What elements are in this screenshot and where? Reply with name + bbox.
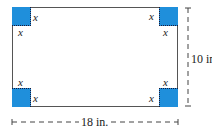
label-x-br-top: x	[163, 77, 168, 88]
corner-square-top-right	[159, 7, 178, 26]
label-x-bl-side: x	[33, 93, 38, 104]
height-dimension-label: 10 in.	[190, 53, 212, 65]
label-x-tl-bottom: x	[18, 27, 23, 38]
label-x-bl-top: x	[18, 77, 23, 88]
label-x-tr-side: x	[149, 11, 154, 22]
corner-square-top-left	[12, 7, 31, 26]
width-dimension-label: 18 in.	[79, 116, 110, 128]
label-x-tr-bottom: x	[163, 27, 168, 38]
corner-square-bottom-right	[159, 88, 178, 107]
label-x-br-side: x	[149, 93, 154, 104]
corner-square-bottom-left	[12, 88, 31, 107]
label-x-tl-side: x	[33, 12, 38, 23]
